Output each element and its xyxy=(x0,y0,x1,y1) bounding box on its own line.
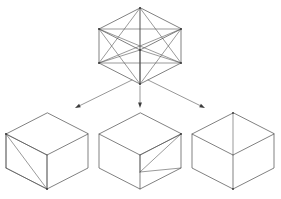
cube-decomposition-diagram xyxy=(0,0,281,199)
result-cube-left-diagonal-0 xyxy=(6,134,47,155)
vertex-top-front xyxy=(139,49,141,51)
left-vertex-bottom-front xyxy=(46,188,48,190)
result-left-top-edges xyxy=(6,134,88,155)
arrow-right-shaft xyxy=(148,80,200,106)
arrow-left-head xyxy=(75,104,81,108)
vertex-bottom-front xyxy=(139,83,141,85)
diagram-canvas: Cube diagonal decomposition diagram A wi… xyxy=(0,0,281,199)
result-cube-middle xyxy=(99,113,182,189)
vertex-top-right xyxy=(180,28,182,30)
source-cube-diagonal-9 xyxy=(99,50,140,63)
arrow-middle-head xyxy=(138,103,142,109)
arrow-left-shaft xyxy=(80,80,132,106)
vertex-bottom-right xyxy=(180,62,182,64)
result-middle-top-edges xyxy=(99,134,181,155)
source-cube-diagonal-10 xyxy=(140,50,181,63)
middle-vertex-top-right xyxy=(180,133,182,135)
left-vertex-top-left xyxy=(5,133,7,135)
source-cube xyxy=(98,7,182,85)
right-vertex-bottom-front xyxy=(232,188,234,190)
result-cube-middle-diagonals xyxy=(140,134,181,172)
result-cube-left-diagonal-1 xyxy=(6,134,47,189)
result-cube-middle-edges xyxy=(99,113,181,189)
arrow-right-head xyxy=(199,104,205,108)
result-cube-middle-vertices xyxy=(180,133,182,135)
arrow-middle xyxy=(138,86,142,108)
result-cube-left-diagonals xyxy=(6,134,47,189)
result-cube-left xyxy=(5,113,88,190)
vertex-bottom-left xyxy=(98,62,100,64)
source-cube-diagonals xyxy=(99,8,181,84)
right-vertex-top-back xyxy=(232,112,234,114)
result-cube-left-diagonal-3 xyxy=(6,168,47,189)
result-cube-middle-diagonal-0 xyxy=(140,134,181,155)
arrow-right xyxy=(148,80,205,108)
vertex-top-left xyxy=(98,28,100,30)
arrow-left xyxy=(75,80,132,108)
vertex-top-back xyxy=(139,7,141,9)
result-cube-middle-diagonal-1 xyxy=(140,134,181,172)
result-cube-right xyxy=(192,112,274,190)
